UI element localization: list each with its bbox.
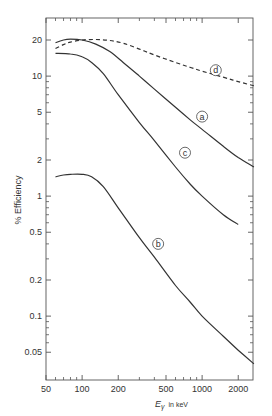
x-tick-label: 500 [158,384,173,394]
x-tick-label: 1000 [192,384,212,394]
curve-label-d: d [210,65,221,76]
svg-text:b: b [156,239,161,249]
curve-label-b: b [153,238,164,249]
y-tick-label: 5 [37,107,42,117]
x-tick-label: 100 [75,384,90,394]
y-tick-label: 0.2 [29,275,42,285]
svg-text:c: c [183,148,188,158]
curves [56,39,254,364]
y-tick-label: 0.05 [24,347,42,357]
y-axis-title: % Efficiency [13,175,23,224]
x-tick-label: 2000 [228,384,248,394]
x-axis-title-unit: in keV [169,401,189,408]
svg-text:a: a [200,112,205,122]
curve-b [56,174,254,364]
curve-c [56,53,239,224]
plot-frame [46,18,253,380]
curve-label-a: a [197,111,208,122]
svg-text:d: d [213,65,218,75]
x-axis-title: Eγin keV [155,399,188,411]
y-tick-label: 10 [32,71,42,81]
curve-d [56,39,254,85]
x-tick-label: 200 [111,384,126,394]
y-tick-label: 20 [32,35,42,45]
y-tick-label: 1 [37,191,42,201]
curve-label-c: c [180,147,191,158]
curve-labels: dacb [153,65,222,250]
x-tick-label: 50 [41,384,51,394]
y-axis-ticks: 0.050.10.20.51251020 [24,35,253,357]
x-axis-title-sub: γ [161,403,165,411]
y-tick-label: 0.1 [29,311,42,321]
y-tick-label: 0.5 [29,227,42,237]
efficiency-chart: 5010020050010002000 0.050.10.20.51251020… [0,0,272,416]
y-tick-label: 2 [37,155,42,165]
